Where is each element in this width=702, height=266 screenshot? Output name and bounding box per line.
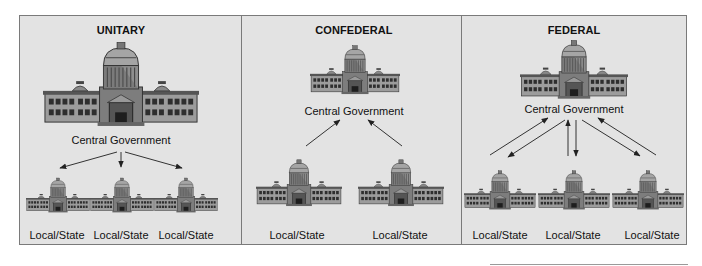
capitol-building-icon <box>256 146 342 222</box>
panel-title: FEDERAL <box>548 24 601 36</box>
capitol-building-icon <box>26 170 90 222</box>
capitol-building-icon <box>154 170 218 222</box>
central-government-label: Central Government <box>71 134 170 146</box>
local-state-label: Local/State <box>545 229 600 241</box>
central-government-label: Central Government <box>304 105 403 117</box>
panel-divider <box>241 15 242 245</box>
local-state-label: Local/State <box>269 229 324 241</box>
capitol-building-icon <box>464 160 536 222</box>
local-state-label: Local/State <box>93 229 148 241</box>
local-state-label: Local/State <box>472 229 527 241</box>
capitol-building-icon <box>358 146 444 222</box>
capitol-building-icon <box>538 160 610 222</box>
local-state-label: Local/State <box>29 229 84 241</box>
central-government-label: Central Government <box>524 103 623 115</box>
capitol-building-icon <box>520 40 628 102</box>
local-state-label: Local/State <box>372 229 427 241</box>
panel-divider <box>461 15 462 245</box>
panel-title: UNITARY <box>97 24 145 36</box>
local-state-label: Local/State <box>158 229 213 241</box>
capitol-building-icon <box>310 44 400 98</box>
footer-rule <box>490 264 688 265</box>
capitol-building-icon <box>612 160 684 222</box>
panel-title: CONFEDERAL <box>315 24 392 36</box>
capitol-building-icon <box>43 42 199 130</box>
capitol-building-icon <box>90 170 154 222</box>
local-state-label: Local/State <box>624 229 679 241</box>
